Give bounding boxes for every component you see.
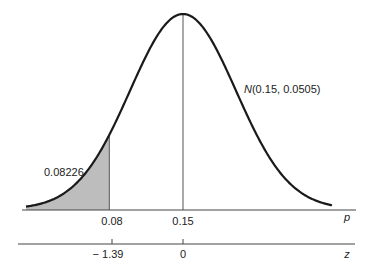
distribution-label-prefix: N <box>244 83 252 95</box>
p-tick-label-0-15: 0.15 <box>172 215 193 227</box>
z-axis-name: z <box>343 248 350 260</box>
normal-distribution-diagram: 0.08 0.15 p − 1.39 0 z 0.08226 N(0.15, 0… <box>0 0 372 276</box>
shaded-area-label: 0.08226 <box>44 166 84 178</box>
z-tick-label-0: 0 <box>180 248 186 260</box>
distribution-label-params: (0.15, 0.0505) <box>252 83 321 95</box>
p-tick-label-0-08: 0.08 <box>101 215 122 227</box>
z-tick-label-neg-1-39: − 1.39 <box>93 248 124 260</box>
p-axis-name: p <box>343 211 350 223</box>
distribution-label: N(0.15, 0.0505) <box>244 83 320 95</box>
